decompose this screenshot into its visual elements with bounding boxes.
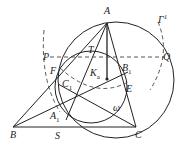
label-omega: ω: [113, 103, 120, 113]
label-p: P: [43, 52, 49, 62]
label-gamma: Γ1: [158, 14, 167, 25]
label-e: E: [126, 84, 132, 94]
line-a-a1: [66, 23, 107, 120]
label-f: F: [50, 66, 56, 76]
ka-point: [105, 77, 108, 80]
label-b: B: [10, 130, 16, 140]
circumcircle: [58, 22, 174, 138]
label-b1: B1: [122, 63, 132, 76]
label-t: T: [88, 45, 94, 55]
gamma-arc-right: [150, 22, 163, 90]
label-q: Q: [163, 52, 170, 62]
label-c: C: [135, 130, 142, 140]
label-c1: C1: [62, 79, 72, 92]
label-ka: Ka: [90, 68, 100, 81]
label-s: S: [55, 131, 60, 141]
label-a1: A1: [50, 111, 60, 124]
label-a: A: [104, 6, 110, 16]
geometry-diagram: A B C P Q T Ka B1 E F C1 A1 S ω Γ1: [0, 0, 183, 153]
